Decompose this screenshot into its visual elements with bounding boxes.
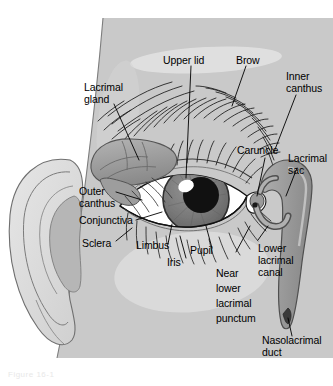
label-near-punctum-line2: lower bbox=[216, 283, 241, 295]
label-lower-canal-line1: Lower bbox=[258, 243, 286, 255]
label-outer-canthus-line1: Outer bbox=[79, 186, 105, 198]
eye-anatomy-figure: Upper lid Brow Inner canthus Lacrimal gl… bbox=[0, 0, 333, 386]
label-outer-canthus-line2: canthus bbox=[79, 198, 115, 210]
label-lacrimal-sac-line1: Lacrimal bbox=[288, 153, 327, 165]
ear bbox=[9, 159, 83, 344]
label-lower-canal-line3: canal bbox=[258, 267, 283, 279]
label-pupil: Pupil bbox=[190, 245, 213, 257]
label-lacrimal-gland-line1: Lacrimal bbox=[84, 82, 123, 94]
label-iris: Iris bbox=[167, 257, 181, 269]
label-lower-canal-line2: lacrimal bbox=[258, 255, 293, 267]
label-nasolacrimal-duct-line2: duct bbox=[262, 347, 281, 359]
label-caruncle: Caruncle bbox=[237, 145, 278, 157]
label-lacrimal-sac-line2: sac bbox=[288, 165, 304, 177]
label-limbus: Limbus bbox=[136, 240, 169, 252]
label-near-punctum-line1: Near bbox=[216, 268, 238, 280]
lower-lacrimal-punctum bbox=[252, 202, 257, 207]
label-upper-lid: Upper lid bbox=[163, 55, 204, 67]
label-lacrimal-gland-line2: gland bbox=[84, 94, 109, 106]
label-near-punctum-line4: punctum bbox=[216, 313, 256, 325]
label-sclera: Sclera bbox=[82, 238, 111, 250]
label-inner-canthus-line1: Inner bbox=[286, 71, 309, 83]
label-near-punctum-line3: lacrimal bbox=[216, 298, 251, 310]
label-inner-canthus-line2: canthus bbox=[286, 83, 322, 95]
label-conjunctiva: Conjunctiva bbox=[79, 215, 133, 227]
figure-caption: Figure 16-1 bbox=[8, 370, 54, 379]
label-brow: Brow bbox=[236, 55, 260, 67]
label-nasolacrimal-duct-line1: Nasolacrimal bbox=[262, 335, 321, 347]
